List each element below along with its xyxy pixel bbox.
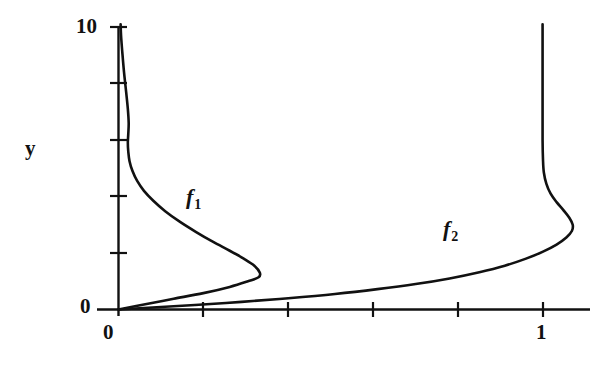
curve-f1-label-base: f <box>186 184 193 209</box>
curve-f2-label-base: f <box>443 216 450 241</box>
curve-f1-label: f1 <box>186 186 200 208</box>
y-axis-zero-label: 0 <box>80 296 91 317</box>
curve-f2 <box>119 24 573 309</box>
curve-f1-label-subscript: 1 <box>194 197 201 212</box>
y-axis-top-tick-label: 10 <box>76 16 97 37</box>
x-axis-zero-label: 0 <box>103 322 114 343</box>
y-axis-title: y <box>25 138 36 159</box>
curve-f2-label-subscript: 2 <box>451 229 458 244</box>
x-axis-one-label: 1 <box>536 322 547 343</box>
chart-figure: 10 0 0 1 y f1 f2 <box>0 0 602 368</box>
curve-f2-label: f2 <box>443 218 457 240</box>
curve-f1 <box>119 24 261 309</box>
